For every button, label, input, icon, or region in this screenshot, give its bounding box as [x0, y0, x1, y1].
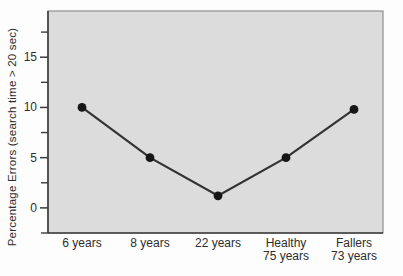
y-tick-label: 15 [24, 50, 38, 64]
x-category-label: 22 years [195, 236, 241, 250]
x-category-label: Healthy75 years [263, 236, 309, 263]
y-axis-title: Percentage Errors (search time > 20 sec) [6, 28, 18, 247]
data-point [282, 153, 291, 162]
plot-area [48, 11, 383, 233]
data-point [214, 191, 223, 200]
chart-figure: 0510156 years8 years22 yearsHealthy75 ye… [0, 0, 403, 276]
y-tick-label: 5 [30, 151, 37, 165]
data-point [350, 105, 359, 114]
y-tick-label: 10 [24, 100, 38, 114]
x-category-label: 6 years [62, 236, 101, 250]
y-tick-label: 0 [30, 201, 37, 215]
x-category-label: 8 years [130, 236, 169, 250]
x-category-label: Fallers73 years [331, 236, 377, 263]
data-point [146, 153, 155, 162]
line-chart: 0510156 years8 years22 yearsHealthy75 ye… [0, 0, 403, 276]
data-point [78, 103, 87, 112]
